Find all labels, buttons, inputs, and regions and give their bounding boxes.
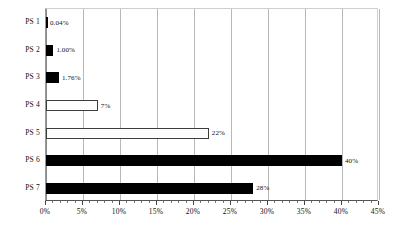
x-tick-minor [141, 201, 142, 203]
bar-value-label: 7% [101, 102, 111, 110]
x-tick-major [267, 201, 268, 205]
x-tick-label: 0% [40, 207, 50, 216]
x-tick-minor [274, 201, 275, 203]
category-label-ps-2: PS 2 [0, 45, 40, 54]
x-tick-minor [326, 201, 327, 203]
x-tick-minor [134, 201, 135, 203]
x-tick-minor [171, 201, 172, 203]
x-tick-minor [311, 201, 312, 203]
x-tick-minor [208, 201, 209, 203]
bar-ps-5 [46, 128, 209, 139]
bar-ps-6 [46, 155, 342, 166]
x-tick-major [378, 201, 379, 205]
x-tick-label: 35% [297, 207, 311, 216]
x-tick-major [156, 201, 157, 205]
x-tick-major [230, 201, 231, 205]
x-tick-minor [297, 201, 298, 203]
bar-ps-4 [46, 100, 98, 111]
bar-ps-3 [46, 72, 59, 83]
x-tick-minor [356, 201, 357, 203]
bar-row: 28% [46, 183, 379, 194]
bar-ps-1 [46, 17, 48, 28]
x-tick-minor [52, 201, 53, 203]
x-tick-major [304, 201, 305, 205]
x-tick-label: 10% [112, 207, 126, 216]
x-tick-major [45, 201, 46, 205]
bar-value-label: 1.00% [56, 46, 75, 54]
x-tick-minor [289, 201, 290, 203]
x-tick-minor [200, 201, 201, 203]
bar-ps-2 [46, 45, 53, 56]
gridline-45 [379, 9, 380, 200]
x-tick-minor [60, 201, 61, 203]
x-tick-minor [149, 201, 150, 203]
bar-value-label: 0.04% [50, 19, 69, 27]
category-label-ps-7: PS 7 [0, 183, 40, 192]
x-tick-minor [75, 201, 76, 203]
x-tick-minor [334, 201, 335, 203]
bar-ps-7 [46, 183, 253, 194]
category-label-ps-4: PS 4 [0, 100, 40, 109]
x-tick-label: 40% [334, 207, 348, 216]
plot-area: 0.04%1.00%1.76%7%22%40%28% [45, 8, 378, 201]
bar-value-label: 28% [256, 184, 269, 192]
x-tick-minor [67, 201, 68, 203]
bar-row: 40% [46, 155, 379, 166]
bar-row: 0.04% [46, 17, 379, 28]
x-axis: 0%5%10%15%20%25%30%35%40%45% [45, 201, 378, 231]
x-tick-major [82, 201, 83, 205]
x-tick-minor [163, 201, 164, 203]
x-tick-minor [371, 201, 372, 203]
x-tick-minor [215, 201, 216, 203]
bar-row: 7% [46, 100, 379, 111]
x-tick-minor [363, 201, 364, 203]
x-tick-minor [245, 201, 246, 203]
x-tick-label: 45% [371, 207, 385, 216]
x-tick-major [341, 201, 342, 205]
x-tick-label: 5% [77, 207, 87, 216]
x-tick-minor [89, 201, 90, 203]
bar-chart: 0.04%1.00%1.76%7%22%40%28% PS 1PS 2PS 3P… [0, 0, 401, 237]
x-tick-minor [112, 201, 113, 203]
x-tick-major [193, 201, 194, 205]
bar-value-label: 40% [345, 157, 358, 165]
bar-row: 1.00% [46, 45, 379, 56]
x-tick-minor [282, 201, 283, 203]
category-label-ps-1: PS 1 [0, 17, 40, 26]
x-tick-minor [186, 201, 187, 203]
x-tick-minor [126, 201, 127, 203]
x-tick-label: 30% [260, 207, 274, 216]
category-label-ps-5: PS 5 [0, 128, 40, 137]
bar-row: 22% [46, 128, 379, 139]
x-tick-minor [97, 201, 98, 203]
bar-value-label: 22% [212, 129, 225, 137]
x-tick-minor [319, 201, 320, 203]
x-tick-minor [178, 201, 179, 203]
bar-value-label: 1.76% [62, 74, 81, 82]
x-tick-minor [104, 201, 105, 203]
x-tick-label: 20% [186, 207, 200, 216]
x-tick-minor [237, 201, 238, 203]
category-label-ps-6: PS 6 [0, 155, 40, 164]
bar-row: 1.76% [46, 72, 379, 83]
x-tick-minor [260, 201, 261, 203]
x-tick-minor [348, 201, 349, 203]
category-label-ps-3: PS 3 [0, 72, 40, 81]
x-tick-label: 25% [223, 207, 237, 216]
x-tick-minor [223, 201, 224, 203]
x-tick-minor [252, 201, 253, 203]
x-tick-major [119, 201, 120, 205]
x-tick-label: 15% [149, 207, 163, 216]
